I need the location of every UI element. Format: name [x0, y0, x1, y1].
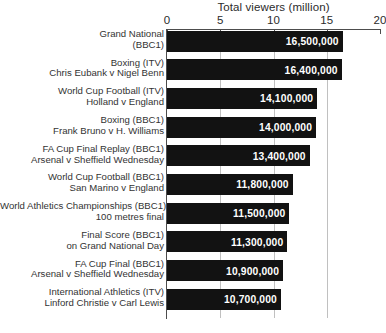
category-label: International Athletics (ITV)Linford Chr… [0, 287, 164, 309]
category-label: World Athletics Championships (BBC1)100 … [0, 201, 164, 223]
category-label-line2: 100 metres final [0, 212, 164, 223]
category-label-line2: Frank Bruno v H. Williams [0, 126, 164, 137]
axis-title: Total viewers (million) [167, 1, 380, 13]
bar: 11,500,000 [167, 203, 289, 224]
category-label-line1: Boxing (ITV) [111, 57, 164, 68]
category-label: FA Cup Final (BBC1)Arsenal v Sheffield W… [0, 259, 164, 281]
category-label-line1: World Athletics Championships (BBC1) [0, 200, 166, 211]
category-label-line1: FA Cup Final Replay (BBC1) [42, 143, 164, 154]
bar-value-label: 14,000,000 [259, 122, 312, 133]
category-label: Boxing (ITV)Chris Eubank v Nigel Benn [0, 58, 164, 80]
category-label-line1: Grand National [99, 28, 164, 39]
bar: 10,900,000 [167, 260, 283, 281]
category-label-line2: (BBC1) [0, 40, 164, 51]
category-label: World Cup Football (BBC1)San Marino v En… [0, 172, 164, 194]
x-axis-tick-labels: 05101520 [167, 14, 380, 27]
category-label-line2: Arsenal v Sheffield Wednesday [0, 269, 164, 280]
chart-row: International Athletics (ITV)Linford Chr… [0, 287, 386, 316]
bar-value-label: 13,400,000 [253, 150, 306, 161]
bar-value-label: 16,500,000 [286, 36, 339, 47]
bar: 11,800,000 [167, 174, 293, 195]
category-label: Grand National(BBC1) [0, 29, 164, 51]
chart-row: World Cup Football (ITV)Holland v Englan… [0, 86, 386, 115]
x-tick-label: 5 [217, 14, 223, 26]
category-label-line2: Linford Christie v Carl Lewis [0, 298, 164, 309]
chart-row: Grand National(BBC1)16,500,000 [0, 29, 386, 58]
chart-row: Boxing (BBC1)Frank Bruno v H. Williams14… [0, 115, 386, 144]
category-label-line2: Chris Eubank v Nigel Benn [0, 68, 164, 79]
chart-row: Boxing (ITV)Chris Eubank v Nigel Benn16,… [0, 58, 386, 87]
bar-value-label: 11,800,000 [236, 179, 288, 190]
bar-value-label: 10,700,000 [224, 294, 277, 305]
category-label-line1: Final Score (BBC1) [81, 229, 164, 240]
category-label-line1: FA Cup Final (BBC1) [75, 258, 164, 269]
bar: 16,500,000 [167, 31, 343, 52]
bar-value-label: 14,100,000 [260, 93, 313, 104]
category-label-line2: on Grand National Day [0, 241, 164, 252]
x-tick-label: 15 [320, 14, 333, 26]
chart-row: Final Score (BBC1)on Grand National Day1… [0, 230, 386, 259]
category-label-line2: Holland v England [0, 97, 164, 108]
category-label-line1: Boxing (BBC1) [101, 114, 164, 125]
bar: 16,400,000 [167, 59, 342, 80]
category-label-line2: Arsenal v Sheffield Wednesday [0, 155, 164, 166]
bar: 10,700,000 [167, 289, 281, 310]
bar: 14,000,000 [167, 117, 316, 138]
chart-row: FA Cup Final Replay (BBC1)Arsenal v Shef… [0, 144, 386, 173]
category-label-line2: San Marino v England [0, 183, 164, 194]
category-label: FA Cup Final Replay (BBC1)Arsenal v Shef… [0, 144, 164, 166]
category-label-line1: International Athletics (ITV) [49, 286, 164, 297]
x-tick-label: 20 [374, 14, 386, 26]
chart-row: World Cup Football (BBC1)San Marino v En… [0, 172, 386, 201]
bar: 14,100,000 [167, 88, 317, 109]
chart-row: FA Cup Final (BBC1)Arsenal v Sheffield W… [0, 259, 386, 288]
category-label: Boxing (BBC1)Frank Bruno v H. Williams [0, 115, 164, 137]
bar-rows: Grand National(BBC1)16,500,000Boxing (IT… [0, 29, 386, 316]
bar-chart: Total viewers (million) 05101520 Grand N… [0, 0, 386, 333]
bar-value-label: 11,300,000 [231, 236, 283, 247]
category-label-line1: World Cup Football (ITV) [58, 85, 164, 96]
chart-row: World Athletics Championships (BBC1)100 … [0, 201, 386, 230]
category-label-line1: World Cup Football (BBC1) [48, 171, 164, 182]
bar: 11,300,000 [167, 231, 287, 252]
x-tick-label: 10 [267, 14, 280, 26]
bar-value-label: 10,900,000 [226, 265, 279, 276]
x-tick-label: 0 [164, 14, 170, 26]
bar-value-label: 16,400,000 [285, 64, 338, 75]
category-label: World Cup Football (ITV)Holland v Englan… [0, 86, 164, 108]
category-label: Final Score (BBC1)on Grand National Day [0, 230, 164, 252]
bar: 13,400,000 [167, 145, 310, 166]
bar-value-label: 11,500,000 [233, 208, 285, 219]
